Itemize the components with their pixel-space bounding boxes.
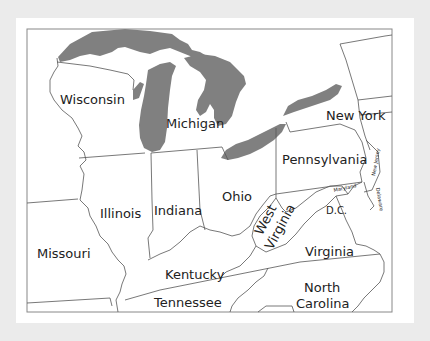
label-michigan: Michigan [166, 116, 224, 131]
label-north-carolina-line1: North [304, 280, 340, 295]
label-missouri: Missouri [37, 246, 91, 261]
label-dc: D.C. [326, 205, 347, 216]
label-indiana: Indiana [154, 203, 202, 218]
label-wisconsin: Wisconsin [60, 92, 125, 107]
label-kentucky: Kentucky [165, 267, 225, 282]
label-new-york: New York [326, 108, 386, 123]
label-pennsylvania: Pennsylvania [282, 152, 367, 167]
label-virginia: Virginia [305, 244, 354, 259]
label-ohio: Ohio [222, 189, 252, 204]
states-map: Wisconsin Michigan New York Pennsylvania… [0, 0, 430, 341]
label-north-carolina-line2: Carolina [296, 296, 350, 311]
label-tennessee: Tennessee [153, 295, 222, 310]
label-illinois: Illinois [100, 206, 141, 221]
